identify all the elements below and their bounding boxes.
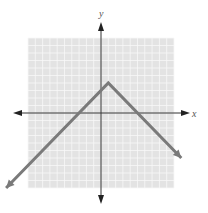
y-axis-arrow-down-icon <box>98 195 104 204</box>
x-axis-arrow-right-icon <box>181 110 190 116</box>
y-axis-label: y <box>98 8 104 19</box>
x-axis-arrow-left-icon <box>13 110 22 116</box>
y-axis-arrow-up-icon <box>98 22 104 31</box>
graph-plot: x y <box>0 0 208 213</box>
x-axis-label: x <box>191 108 197 119</box>
